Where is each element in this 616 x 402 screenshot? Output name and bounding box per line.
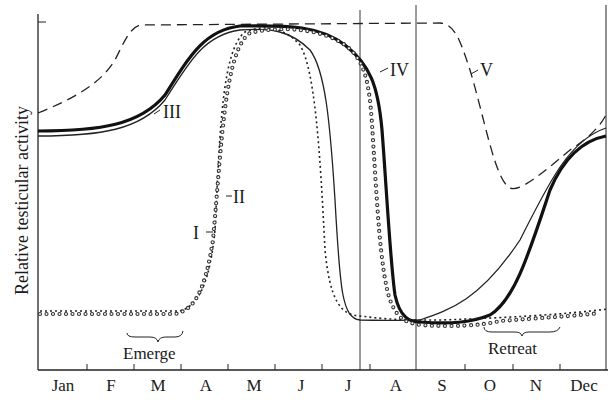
curve-label-III: III (163, 103, 181, 121)
label-leaders (154, 68, 478, 232)
x-tick-label: Dec (570, 376, 597, 396)
curve-IV (38, 26, 606, 323)
x-tick-label: A (390, 376, 402, 396)
x-ticks (87, 364, 560, 370)
curve-I (40, 28, 608, 320)
x-tick-label: N (530, 376, 542, 396)
x-tick-label: O (484, 376, 496, 396)
x-tick-label: F (106, 376, 115, 396)
curve-label-IV: IV (390, 61, 409, 79)
curve-III (38, 29, 606, 320)
x-tick-label: A (200, 376, 212, 396)
x-tick-label: M (150, 376, 165, 396)
x-tick-label: J (345, 376, 352, 396)
x-tick-label: Jan (52, 376, 75, 396)
curve-V (38, 23, 606, 189)
curve-label-V: V (480, 61, 493, 79)
emerge-annotation: Emerge (123, 345, 176, 362)
curve-label-I: I (193, 224, 199, 242)
y-axis-label: Relative testicular activity (12, 101, 33, 301)
curve-label-II: II (233, 188, 245, 206)
x-tick-label: S (437, 376, 446, 396)
x-tick-label: J (298, 376, 305, 396)
retreat-brace (484, 327, 560, 336)
x-tick-label: M (246, 376, 261, 396)
retreat-annotation: Retreat (488, 340, 537, 357)
emerge-brace (127, 331, 183, 342)
